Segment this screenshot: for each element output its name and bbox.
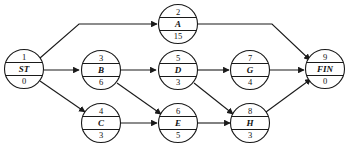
node-id: 1 xyxy=(22,52,26,62)
node-id: 6 xyxy=(176,106,180,116)
node-fin[interactable]: 9FIN0 xyxy=(306,50,345,89)
network-canvas: 1ST02A153B64C35D36E57G48H39FIN0 xyxy=(0,0,349,150)
node-duration: 3 xyxy=(99,130,103,140)
node-label: ST xyxy=(19,64,30,74)
node-duration: 5 xyxy=(176,130,180,140)
node-id: 3 xyxy=(99,53,103,63)
nodes-layer: 1ST02A153B64C35D36E57G48H39FIN0 xyxy=(5,5,345,143)
node-duration: 3 xyxy=(176,77,180,87)
node-duration: 15 xyxy=(174,31,183,41)
edge-b-e xyxy=(117,83,161,114)
node-a[interactable]: 2A15 xyxy=(159,5,198,44)
node-duration: 3 xyxy=(248,130,252,140)
node-label: B xyxy=(97,65,104,75)
node-label: G xyxy=(247,65,254,75)
node-b[interactable]: 3B6 xyxy=(82,51,121,90)
node-duration: 6 xyxy=(99,77,103,87)
edge-h-fin xyxy=(266,79,311,112)
node-id: 7 xyxy=(248,53,252,63)
node-id: 8 xyxy=(248,106,252,116)
node-label: FIN xyxy=(316,64,334,74)
node-label: D xyxy=(174,65,182,75)
node-label: A xyxy=(174,19,181,29)
node-duration: 0 xyxy=(22,76,26,86)
node-g[interactable]: 7G4 xyxy=(231,51,270,90)
network-diagram: 1ST02A153B64C35D36E57G48H39FIN0 xyxy=(0,0,349,150)
edge-d-h xyxy=(194,83,233,114)
node-label: E xyxy=(174,118,181,128)
node-e[interactable]: 6E5 xyxy=(159,104,198,143)
node-label: C xyxy=(98,118,105,128)
node-id: 5 xyxy=(176,53,180,63)
node-id: 9 xyxy=(323,52,327,62)
node-id: 2 xyxy=(176,7,180,17)
node-c[interactable]: 4C3 xyxy=(82,104,121,143)
node-d[interactable]: 5D3 xyxy=(159,51,198,90)
node-label: H xyxy=(245,118,254,128)
node-st[interactable]: 1ST0 xyxy=(5,50,44,89)
node-duration: 0 xyxy=(323,76,327,86)
edge-st-c xyxy=(40,81,85,112)
node-h[interactable]: 8H3 xyxy=(231,104,270,143)
